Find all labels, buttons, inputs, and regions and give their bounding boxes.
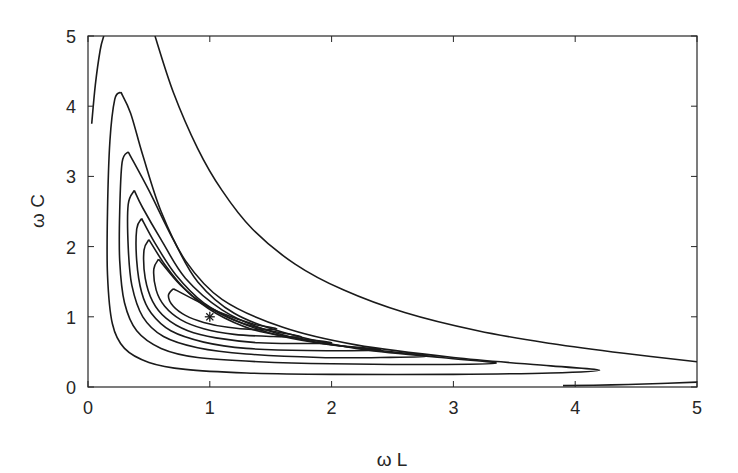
- contour-chart: 012345 012345 ω L ω C: [0, 0, 738, 473]
- y-tick-label: 3: [66, 167, 76, 187]
- x-tick-label: 0: [83, 398, 93, 418]
- x-tick-label: 2: [327, 398, 337, 418]
- y-tick-label: 4: [66, 97, 76, 117]
- y-tick-label: 0: [66, 378, 76, 398]
- optimum-marker: [205, 312, 215, 322]
- x-tick-label: 1: [205, 398, 215, 418]
- x-axis-label: ω L: [377, 449, 408, 470]
- y-axis-label: ω C: [27, 194, 48, 228]
- x-tick-label: 5: [692, 398, 702, 418]
- x-tick-label: 4: [570, 398, 580, 418]
- y-tick-label: 1: [66, 308, 76, 328]
- y-tick-label: 5: [66, 27, 76, 47]
- x-tick-label: 3: [448, 398, 458, 418]
- y-tick-label: 2: [66, 238, 76, 258]
